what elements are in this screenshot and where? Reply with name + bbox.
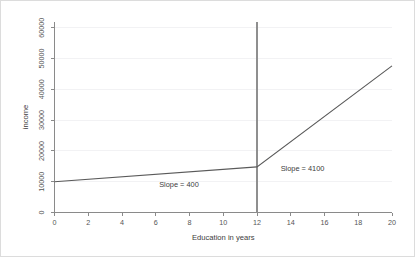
y-tick-label: 40000 xyxy=(37,79,46,99)
y-tick-label: 20000 xyxy=(37,141,46,161)
y-tick-label: 0 xyxy=(37,211,46,215)
x-tick-label: 0 xyxy=(53,218,57,227)
data-series-group xyxy=(55,66,393,182)
y-tick-label: 50000 xyxy=(37,48,46,68)
x-tick-label: 18 xyxy=(354,218,362,227)
y-tick-group xyxy=(51,28,55,213)
x-tick-label: 10 xyxy=(219,218,227,227)
x-tick-label: 12 xyxy=(253,218,261,227)
x-tick-label: 8 xyxy=(188,218,192,227)
chart-figure: 0100002000030000400005000060000 02468101… xyxy=(0,0,415,257)
slope-post-label: Slope = 4100 xyxy=(281,164,325,173)
x-tick-label: 2 xyxy=(86,218,90,227)
x-axis: 02468101214161820 xyxy=(53,213,397,227)
series-income-piecewise xyxy=(55,66,393,182)
y-axis: 0100002000030000400005000060000 xyxy=(37,18,55,215)
x-tick-label-group: 02468101214161820 xyxy=(53,218,397,227)
gridline-group xyxy=(55,28,393,213)
y-tick-label: 60000 xyxy=(37,18,46,38)
x-axis-title: Education in years xyxy=(192,233,255,242)
x-tick-label: 14 xyxy=(287,218,295,227)
x-tick-group xyxy=(55,213,393,217)
y-axis-title: income xyxy=(21,105,30,129)
plot-canvas: 0100002000030000400005000060000 02468101… xyxy=(1,1,415,257)
x-tick-label: 6 xyxy=(154,218,158,227)
x-tick-label: 20 xyxy=(388,218,396,227)
y-tick-label: 10000 xyxy=(37,172,46,192)
y-tick-label: 30000 xyxy=(37,110,46,130)
y-tick-label-group: 0100002000030000400005000060000 xyxy=(37,18,46,215)
x-tick-label: 4 xyxy=(120,218,124,227)
slope-pre-label: Slope = 400 xyxy=(159,180,199,189)
x-tick-label: 16 xyxy=(321,218,329,227)
